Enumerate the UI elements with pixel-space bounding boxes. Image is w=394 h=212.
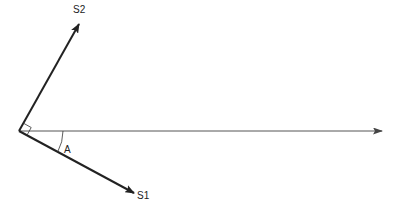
angle-a-arc <box>58 131 63 152</box>
vector-s1-label: S1 <box>137 190 150 201</box>
vector-s2 <box>19 24 79 131</box>
vector-diagram: A S2 S1 <box>0 0 394 212</box>
vector-s1 <box>19 131 134 193</box>
angle-a-label: A <box>64 144 71 155</box>
vector-s2-label: S2 <box>73 4 86 15</box>
